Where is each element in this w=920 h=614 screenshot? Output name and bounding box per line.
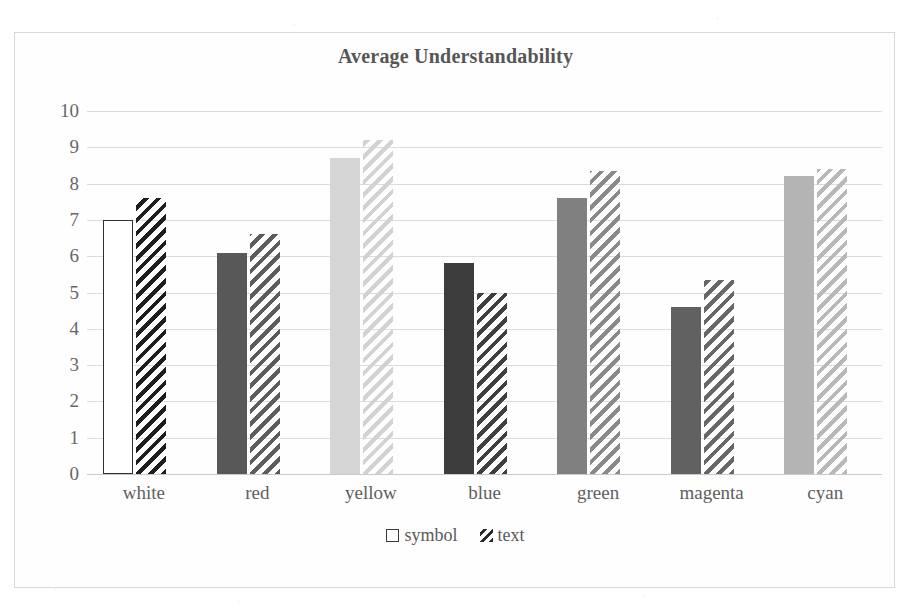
- y-tick-label: 8: [45, 173, 79, 195]
- bar-text-yellow: [363, 140, 393, 474]
- bar-group-green: [541, 111, 655, 474]
- x-tick-label-white: white: [87, 482, 201, 504]
- y-tick-label: 4: [45, 318, 79, 340]
- bar-group-cyan: [768, 111, 882, 474]
- legend-entry-symbol[interactable]: symbol: [386, 525, 457, 546]
- x-tick-label-yellow: yellow: [314, 482, 428, 504]
- bar-text-cyan: [817, 169, 847, 474]
- bars-layer: [87, 111, 882, 474]
- bar-symbol-white: [103, 220, 133, 474]
- gridline-0: [87, 474, 882, 475]
- legend-swatch-outlined-square-icon: [386, 529, 399, 542]
- x-tick-label-cyan: cyan: [768, 482, 882, 504]
- legend-swatch-diagonal-hatch-icon: [480, 529, 493, 542]
- bar-symbol-green: [557, 198, 587, 474]
- legend-label: symbol: [404, 525, 457, 546]
- x-axis: whiteredyellowbluegreenmagentacyan: [87, 482, 882, 512]
- bar-text-magenta: [704, 280, 734, 474]
- bar-symbol-cyan: [784, 176, 814, 474]
- x-tick-label-red: red: [201, 482, 315, 504]
- y-tick-label: 0: [45, 463, 79, 485]
- bar-group-yellow: [314, 111, 428, 474]
- y-tick-label: 10: [45, 100, 79, 122]
- bar-group-blue: [428, 111, 542, 474]
- bar-group-white: [87, 111, 201, 474]
- x-tick-label-green: green: [541, 482, 655, 504]
- bar-symbol-red: [217, 253, 247, 474]
- bar-symbol-magenta: [671, 307, 701, 474]
- bar-group-magenta: [655, 111, 769, 474]
- y-tick-label: 1: [45, 427, 79, 449]
- y-tick-label: 7: [45, 209, 79, 231]
- bar-text-red: [250, 234, 280, 474]
- chart-title: Average Understandability: [15, 45, 896, 68]
- chart-frame: Average Understandability 109876543210 w…: [14, 32, 895, 588]
- bar-text-blue: [477, 293, 507, 475]
- bar-symbol-yellow: [330, 158, 360, 474]
- y-tick-label: 6: [45, 245, 79, 267]
- chart-legend: symboltext: [15, 525, 896, 546]
- y-axis: 109876543210: [39, 111, 79, 474]
- bar-text-white: [136, 198, 166, 474]
- bar-symbol-blue: [444, 263, 474, 474]
- bar-text-green: [590, 171, 620, 474]
- legend-label: text: [498, 525, 525, 546]
- x-tick-label-blue: blue: [428, 482, 542, 504]
- y-tick-label: 2: [45, 390, 79, 412]
- x-tick-label-magenta: magenta: [655, 482, 769, 504]
- legend-entry-text[interactable]: text: [480, 525, 525, 546]
- y-tick-label: 9: [45, 136, 79, 158]
- y-tick-label: 3: [45, 354, 79, 376]
- y-tick-label: 5: [45, 282, 79, 304]
- bar-group-red: [201, 111, 315, 474]
